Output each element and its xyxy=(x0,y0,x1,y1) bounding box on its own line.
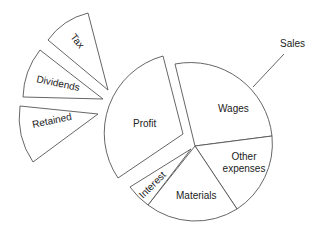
sales-leader-line xyxy=(253,54,284,87)
segment-profit xyxy=(104,56,183,178)
label-profit: Profit xyxy=(133,118,157,129)
label-other-expenses-line2: expenses xyxy=(223,163,266,174)
sales-exploded-pie-diagram: Sales Wages Other expenses Materials Int… xyxy=(0,0,319,236)
label-materials: Materials xyxy=(176,190,217,201)
label-sales: Sales xyxy=(280,38,305,49)
label-wages: Wages xyxy=(218,103,249,114)
label-other-expenses-line1: Other xyxy=(231,151,257,162)
